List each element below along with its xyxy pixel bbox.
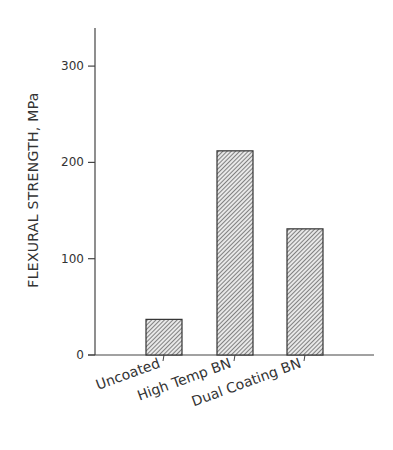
- category-labels: UncoatedHigh Temp BNDual Coating BN: [94, 355, 305, 409]
- x-tick: [163, 355, 164, 361]
- bar-chart: FLEXURAL STRENGTH, MPa 0100200300 Uncoat…: [0, 0, 393, 450]
- y-tick-label: 300: [61, 59, 84, 73]
- y-tick-label: 200: [61, 155, 84, 169]
- y-axis-label: FLEXURAL STRENGTH, MPa: [25, 92, 41, 287]
- bar-high-temp-bn: [217, 151, 253, 355]
- bars: [146, 151, 323, 355]
- y-tick-label: 0: [76, 348, 84, 362]
- y-axis-ticks: 0100200300: [61, 59, 95, 362]
- bar-uncoated: [146, 319, 182, 355]
- y-tick-label: 100: [61, 252, 84, 266]
- bar-dual-coating-bn: [287, 229, 323, 355]
- x-tick: [304, 355, 305, 361]
- x-tick: [234, 355, 235, 361]
